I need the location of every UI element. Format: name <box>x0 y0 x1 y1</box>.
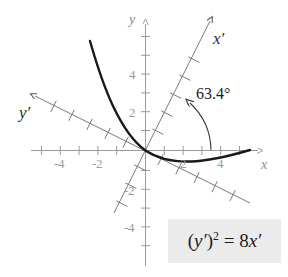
x-axis-label: x <box>261 158 267 172</box>
y-prime-mark: ′ <box>27 103 31 122</box>
x-tick-label-pos2: 2 <box>180 157 186 170</box>
angle-measure-label: 63.4° <box>196 86 230 102</box>
equation-box: (y′)2 = 8x′ <box>168 219 281 263</box>
equation-coefficient: 8 <box>239 231 249 252</box>
y-prime-axis-label: y′ <box>19 104 30 121</box>
y-tick-label-pos4: 4 <box>129 68 135 81</box>
y-tick-label-pos2: 2 <box>129 106 135 119</box>
y-axis <box>141 24 150 266</box>
y-tick-label-neg4: -4 <box>124 221 134 234</box>
x-prime-axis-label: x′ <box>213 30 224 47</box>
equation-text: (y′)2 = 8x′ <box>188 231 261 250</box>
x-tick-label-neg2: -2 <box>92 157 102 170</box>
x-prime-var: x <box>213 29 221 48</box>
y-axis-label: y <box>129 13 135 27</box>
x-prime-mark: ′ <box>221 29 225 48</box>
equation-x-prime: ′ <box>257 231 261 252</box>
y-prime-var: y <box>19 103 27 122</box>
equation-x-var: x <box>249 231 257 252</box>
equation-y-var: y <box>194 231 202 252</box>
x-tick-label-neg4: -4 <box>54 157 64 170</box>
y-tick-label-neg2: -2 <box>124 184 134 197</box>
x-tick-label-pos4: 4 <box>217 157 223 170</box>
angle-arc <box>190 103 211 150</box>
rotated-conic-figure: x y x′ y′ -4 -2 2 4 4 2 -2 -4 63.4° (y′)… <box>0 0 288 277</box>
equation-equals: = <box>224 231 235 252</box>
equation-exponent: 2 <box>213 230 219 243</box>
